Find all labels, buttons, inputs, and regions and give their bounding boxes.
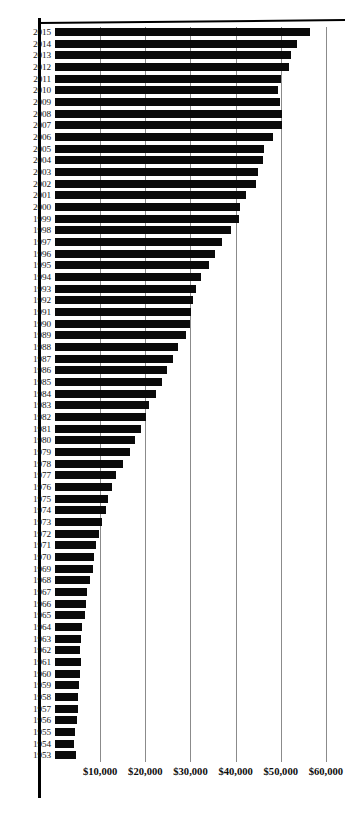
year-label-1972: 1972 [33,529,51,541]
year-label-1974: 1974 [33,505,51,517]
year-label-1963: 1963 [33,634,51,646]
bar-2006 [55,133,273,141]
year-label-1986: 1986 [33,365,51,377]
bar-1959 [55,681,79,689]
bar-2002 [55,180,256,188]
bar-2013 [55,51,291,59]
bar-1991 [55,308,191,316]
bar-1971 [55,541,96,549]
year-label-1965: 1965 [33,610,51,622]
year-label-2011: 2011 [33,74,51,86]
year-label-1962: 1962 [33,645,51,657]
gridline-60000 [326,27,327,762]
value-axis-tick-labels: $10,000$20,000$30,000$40,000$50,000$60,0… [0,766,344,788]
year-label-2014: 2014 [33,39,51,51]
year-label-1996: 1996 [33,249,51,261]
bar-1987 [55,355,173,363]
bar-1988 [55,343,178,351]
year-label-1979: 1979 [33,447,51,459]
bar-2001 [55,191,246,199]
year-label-1984: 1984 [33,389,51,401]
year-label-1981: 1981 [33,424,51,436]
year-label-1977: 1977 [33,470,51,482]
bar-1994 [55,273,201,281]
bar-1954 [55,740,74,748]
year-label-1992: 1992 [33,295,51,307]
year-label-1976: 1976 [33,482,51,494]
year-label-2015: 2015 [33,27,51,39]
gridline-50000 [281,27,282,762]
year-label-2003: 2003 [33,167,51,179]
year-label-1971: 1971 [33,540,51,552]
xtick-label-60000: $60,000 [309,766,343,777]
bar-1999 [55,215,239,223]
year-label-2001: 2001 [33,190,51,202]
bar-1956 [55,716,77,724]
bar-2015 [55,28,310,36]
bar-2010 [55,86,278,94]
bar-1963 [55,635,81,643]
year-label-1964: 1964 [33,622,51,634]
bar-1990 [55,320,190,328]
year-label-2010: 2010 [33,85,51,97]
year-label-1955: 1955 [33,727,51,739]
xtick-label-30000: $30,000 [173,766,207,777]
bar-1982 [55,413,146,421]
bar-1983 [55,401,149,409]
year-label-1982: 1982 [33,412,51,424]
year-label-1969: 1969 [33,564,51,576]
year-label-1978: 1978 [33,459,51,471]
year-label-1999: 1999 [33,214,51,226]
bar-1985 [55,378,162,386]
bar-1984 [55,390,156,398]
bar-1962 [55,646,80,654]
year-label-1957: 1957 [33,704,51,716]
bar-1953 [55,751,76,759]
year-label-1966: 1966 [33,599,51,611]
bar-1970 [55,553,94,561]
bar-2005 [55,145,264,153]
bar-1957 [55,705,78,713]
year-label-1990: 1990 [33,319,51,331]
year-label-1988: 1988 [33,342,51,354]
bar-2014 [55,40,297,48]
xtick-label-10000: $10,000 [83,766,117,777]
year-label-1960: 1960 [33,669,51,681]
year-label-1958: 1958 [33,692,51,704]
year-label-2002: 2002 [33,179,51,191]
bar-1964 [55,623,82,631]
year-category-axis: 2015201420132012201120102009200820072006… [0,27,53,762]
bar-1989 [55,331,186,339]
year-label-2012: 2012 [33,62,51,74]
year-label-1985: 1985 [33,377,51,389]
bar-2004 [55,156,263,164]
year-label-1994: 1994 [33,272,51,284]
year-label-1980: 1980 [33,435,51,447]
bar-1961 [55,658,81,666]
bar-1997 [55,238,222,246]
year-label-2006: 2006 [33,132,51,144]
page-top-border-rule [39,19,345,24]
chart-plot-area [55,27,344,762]
year-label-1961: 1961 [33,657,51,669]
bar-1965 [55,611,85,619]
xtick-label-40000: $40,000 [218,766,252,777]
bar-1986 [55,366,167,374]
year-label-1998: 1998 [33,225,51,237]
year-label-1959: 1959 [33,680,51,692]
bar-1968 [55,576,90,584]
bar-2007 [55,121,282,129]
bar-2009 [55,98,280,106]
bar-1969 [55,565,93,573]
year-label-2005: 2005 [33,144,51,156]
bar-1955 [55,728,75,736]
year-label-2000: 2000 [33,202,51,214]
year-label-1956: 1956 [33,715,51,727]
year-label-1973: 1973 [33,517,51,529]
bar-1996 [55,250,215,258]
bar-1998 [55,226,231,234]
year-label-1991: 1991 [33,307,51,319]
year-label-1954: 1954 [33,739,51,751]
year-label-1983: 1983 [33,400,51,412]
